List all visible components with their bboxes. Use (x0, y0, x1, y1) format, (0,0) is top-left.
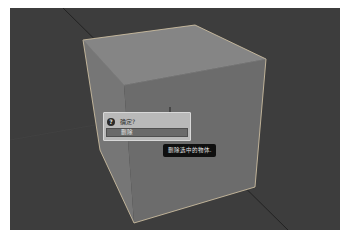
confirm-dialog: ? 确定? 删除 (103, 112, 191, 141)
cube-front-face (124, 59, 266, 223)
tooltip: 删除选中的物体. (163, 144, 216, 157)
question-icon: ? (107, 118, 115, 126)
grid-line (10, 125, 95, 140)
delete-button-label: 删除 (121, 129, 133, 136)
dialog-title: 确定? (120, 117, 135, 126)
dialog-header: ? 确定? (107, 116, 135, 127)
delete-button[interactable]: 删除 (106, 128, 188, 137)
crosshair-cursor-icon (166, 102, 174, 112)
